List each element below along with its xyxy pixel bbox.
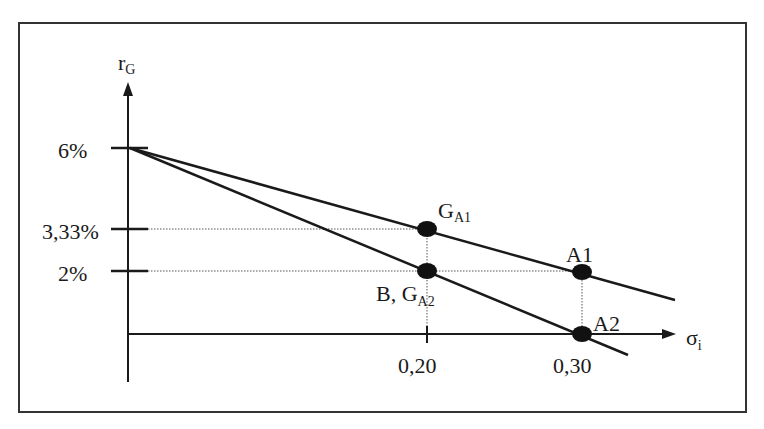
point-b-ga2-label: B, GA2 — [376, 281, 435, 309]
x-axis-label: σi — [686, 325, 702, 353]
point-a1-label: A1 — [566, 242, 593, 267]
point-a2-label: A2 — [593, 311, 620, 336]
x-axis-arrow-icon — [662, 329, 676, 339]
y-tick-label-2: 2% — [58, 261, 87, 286]
y-tick-label-333: 3,33% — [42, 219, 99, 244]
point-ga1 — [417, 221, 437, 237]
y-axis-arrow-icon — [123, 82, 133, 96]
point-ga1-label: GA1 — [438, 198, 471, 225]
point-a2 — [572, 326, 592, 342]
line-a1 — [130, 148, 675, 300]
points — [417, 221, 592, 342]
y-ticks — [111, 148, 148, 271]
x-tick-label-030: 0,30 — [553, 353, 592, 378]
line-a2 — [130, 148, 628, 355]
x-tick-label-020: 0,20 — [398, 353, 437, 378]
y-axis-label: rG — [118, 50, 135, 77]
portfolio-risk-return-diagram: rG σi 6% 3,33% 2% 0,20 0,30 GA1 B, GA2 A… — [0, 0, 764, 429]
y-tick-label-6: 6% — [58, 138, 87, 163]
point-b-ga2 — [417, 263, 437, 279]
